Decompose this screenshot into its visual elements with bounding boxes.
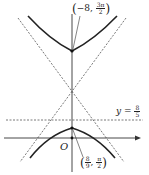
vertex-bottom-point	[70, 126, 73, 129]
origin-point	[71, 137, 74, 140]
horizontal-line-eq: =	[124, 106, 132, 116]
diagram-canvas	[0, 0, 149, 175]
point-top-sep: ,	[90, 3, 93, 13]
leader-line-bottom	[73, 130, 83, 157]
asymptote-line-1	[18, 18, 124, 162]
origin-label: O	[60, 142, 68, 152]
point-top-y-den: 2	[99, 9, 103, 15]
horizontal-line-den: 5	[135, 112, 139, 118]
horizontal-line-label: y = 85	[116, 105, 140, 118]
point-bottom-x-den: 9	[86, 163, 90, 169]
x-axis-arrow-icon	[135, 136, 141, 141]
upper-hyperbola-branch	[28, 16, 117, 51]
horizontal-line-fraction: 85	[134, 105, 140, 118]
asymptote-line-2	[20, 18, 126, 162]
point-bottom-label: (89, π2)	[80, 156, 107, 169]
vertex-top-point	[70, 49, 73, 52]
point-top-label: (−8, 3π2)	[72, 2, 110, 15]
leader-line-top	[73, 16, 80, 49]
lower-hyperbola-branch	[30, 128, 115, 158]
horizontal-line-var: y	[116, 106, 121, 116]
point-bottom-sep: ,	[91, 157, 94, 167]
point-bottom-y-den: 2	[97, 163, 101, 169]
point-top-x: −8	[77, 3, 90, 13]
